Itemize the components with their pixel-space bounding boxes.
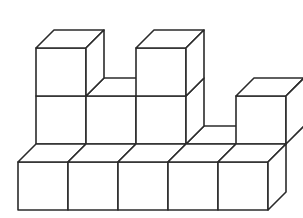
cube-front-face-back-row-col4-level1 bbox=[236, 96, 286, 144]
cube-front-face-front-row-col3 bbox=[168, 162, 218, 210]
cube-front-face-back-row-col1-level1 bbox=[86, 96, 136, 144]
cube-front-face-front-row-col4 bbox=[218, 162, 268, 210]
cube-front-face-back-row-col0-level1 bbox=[36, 96, 86, 144]
cube-front-face-back-row-col0-level2 bbox=[36, 48, 86, 96]
cube-front-face-front-row-col2 bbox=[118, 162, 168, 210]
cube-front-face-back-row-col2-level2 bbox=[136, 48, 186, 96]
cube-front-face-back-row-col2-level1 bbox=[136, 96, 186, 144]
cube-front-face-front-row-col1 bbox=[68, 162, 118, 210]
isometric-figure-canvas bbox=[0, 0, 303, 218]
cube-front-face-front-row-col0 bbox=[18, 162, 68, 210]
cube-layer bbox=[18, 30, 303, 210]
cube-stack-drawing bbox=[0, 0, 303, 218]
